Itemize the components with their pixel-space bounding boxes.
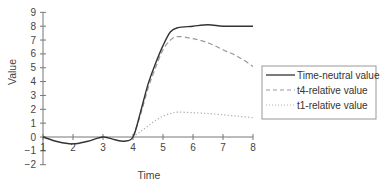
x-tick-label: 6 bbox=[190, 142, 196, 153]
y-tick-label: −2 bbox=[25, 159, 37, 170]
x-tick-label: 7 bbox=[220, 142, 226, 153]
y-tick-label: 4 bbox=[30, 76, 36, 87]
x-tick-label: 8 bbox=[250, 142, 256, 153]
legend-label: Time-neutral value bbox=[297, 70, 380, 81]
y-tick-label: 6 bbox=[30, 48, 36, 59]
series-layer bbox=[43, 25, 253, 144]
series-solid-line bbox=[43, 25, 253, 144]
y-tick-label: 1 bbox=[30, 118, 36, 129]
legend: Time-neutral value t4-relative value t1-… bbox=[262, 66, 380, 119]
y-tick-label: 5 bbox=[30, 62, 36, 73]
y-tick-label: 7 bbox=[30, 35, 36, 46]
y-tick-label: 3 bbox=[30, 90, 36, 101]
x-tick-label: 4 bbox=[130, 142, 136, 153]
y-tick-label: −1 bbox=[25, 145, 37, 156]
series-dotted-line bbox=[133, 112, 253, 137]
series-dashed-line bbox=[133, 37, 253, 137]
line-chart: −2−10123456789 12345678 Value Time Time-… bbox=[0, 0, 388, 188]
y-tick-label: 9 bbox=[30, 7, 36, 18]
y-axis-title: Value bbox=[6, 59, 18, 85]
x-axis-title: Time bbox=[138, 169, 161, 181]
y-tick-label: 0 bbox=[30, 132, 36, 143]
x-tick-label: 3 bbox=[100, 142, 106, 153]
legend-label: t4-relative value bbox=[297, 85, 368, 96]
x-tick-label: 1 bbox=[40, 142, 46, 153]
y-tick-label: 2 bbox=[30, 104, 36, 115]
y-tick-label: 8 bbox=[30, 21, 36, 32]
legend-label: t1-relative value bbox=[297, 100, 368, 111]
x-tick-label: 5 bbox=[160, 142, 166, 153]
